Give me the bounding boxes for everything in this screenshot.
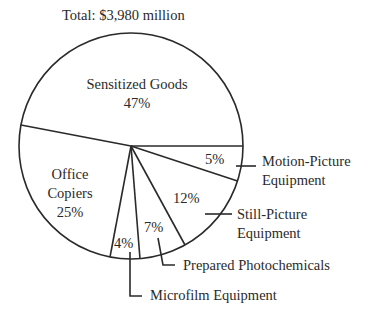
still-picture-name-2: Equipment	[237, 224, 307, 243]
sensitized-goods-name: Sensitized Goods	[72, 75, 202, 94]
motion-picture-name-2: Equipment	[262, 171, 351, 190]
sensitized-goods-pct: 47%	[72, 94, 202, 113]
microfilm-equipment-pct: 4%	[114, 234, 133, 253]
slice-label-motion-picture: Motion-Picture Equipment	[262, 152, 351, 190]
prepared-photochemicals-pct: 7%	[144, 218, 163, 237]
slice-label-still-picture: Still-Picture Equipment	[237, 205, 307, 243]
chart-title: Total: $3,980 million	[62, 6, 185, 25]
pie-chart: Total: $3,980 million Sensitized Goods 4…	[0, 0, 373, 319]
still-picture-pct: 12%	[173, 189, 200, 208]
motion-picture-pct: 5%	[205, 150, 224, 169]
slice-label-sensitized-goods: Sensitized Goods 47%	[72, 75, 202, 113]
motion-picture-name-1: Motion-Picture	[262, 152, 351, 171]
still-picture-name-1: Still-Picture	[237, 205, 307, 224]
slice-label-office-copiers: Office Copiers 25%	[30, 165, 110, 222]
slice-label-prepared-photochemicals: Prepared Photochemicals	[183, 256, 330, 275]
slice-label-microfilm-equipment: Microfilm Equipment	[150, 286, 277, 305]
office-copiers-pct: 25%	[30, 203, 110, 222]
office-copiers-name-1: Office	[30, 165, 110, 184]
office-copiers-name-2: Copiers	[30, 184, 110, 203]
